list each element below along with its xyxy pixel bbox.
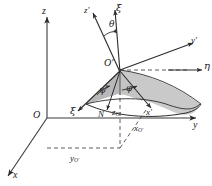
label-angle-theta: θ — [109, 20, 114, 29]
label-y-offset-sub: O′ — [74, 157, 79, 163]
label-x-offset-sub: O′ — [138, 127, 143, 133]
label-axis-x: x — [13, 170, 17, 180]
label-axis-eta: η — [204, 61, 210, 71]
label-node-N: N — [98, 110, 104, 119]
label-axis-y: y — [193, 120, 197, 130]
label-axis-xi-lower: ξ — [70, 106, 76, 116]
axis-y-prime — [120, 43, 193, 70]
label-axis-z: z — [42, 6, 46, 16]
label-axis-xi-top: ξ — [116, 3, 122, 13]
angle-arc-theta — [104, 32, 117, 36]
label-z-offset-sub: O′ — [116, 111, 121, 117]
label-z-offset: zO′ — [112, 108, 121, 118]
euler-angle-diagram: z y x O z' ξ θ O′ y' η ξ ψ φ N zO′ x' xO… — [0, 0, 212, 186]
label-angle-phi: φ — [126, 84, 132, 93]
label-axis-z-prime: z' — [84, 6, 89, 15]
label-origin-O: O — [33, 110, 40, 120]
label-angle-psi: ψ — [99, 86, 106, 95]
label-axis-x-prime: x' — [146, 108, 152, 117]
fixed-axis-x — [8, 118, 47, 176]
label-axis-y-prime: y' — [191, 36, 197, 45]
label-y-offset: yO′ — [70, 154, 79, 164]
label-origin-prime: O′ — [104, 58, 113, 68]
label-x-offset: xO′ — [134, 124, 143, 134]
label-origin-prime-mark: ′ — [111, 57, 113, 68]
